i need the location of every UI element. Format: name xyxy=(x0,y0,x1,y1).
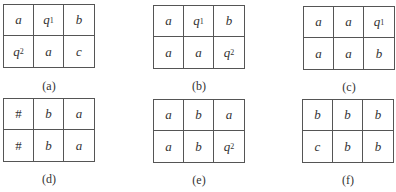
cell-symbol: c xyxy=(315,139,321,155)
grid-cell: c xyxy=(303,131,333,162)
cell-subscript: 2 xyxy=(20,47,24,56)
grid-cell: a xyxy=(154,37,184,68)
cell-symbol: a xyxy=(315,14,322,30)
grid-cell: b xyxy=(64,5,94,36)
grid-cell: a xyxy=(304,7,334,38)
cell-symbol: b xyxy=(314,107,321,123)
panel-caption: (a) xyxy=(3,79,95,94)
grid-cell: a xyxy=(154,100,184,131)
grid-cell: b xyxy=(303,100,333,131)
grid-cell: b xyxy=(34,99,64,130)
panel-e: abaabq2 xyxy=(153,99,245,163)
cell-symbol: a xyxy=(165,13,172,29)
cell-symbol: b xyxy=(344,107,351,123)
cell-symbol: b xyxy=(76,12,83,28)
grid-cell: a xyxy=(214,100,244,131)
cell-symbol: b xyxy=(45,106,52,122)
grid-cell: b xyxy=(184,100,214,131)
grid-cell: a xyxy=(334,7,364,38)
panel-d: #ba#ba xyxy=(3,98,95,162)
grid-cell: a xyxy=(154,131,184,162)
cell-subscript: 2 xyxy=(230,142,234,151)
panel-caption: (d) xyxy=(3,172,95,187)
grid-cell: a xyxy=(304,38,334,69)
panel-c: aaq1aab xyxy=(303,6,395,70)
cell-symbol: a xyxy=(45,44,52,60)
cell-symbol: a xyxy=(15,12,22,28)
cell-symbol: a xyxy=(165,45,172,61)
cell-symbol: a xyxy=(76,138,83,154)
cell-symbol: a xyxy=(165,107,172,123)
cell-symbol: a xyxy=(226,107,233,123)
grid-cell: q2 xyxy=(214,131,244,162)
cell-subscript: 2 xyxy=(230,48,234,57)
grid-cell: q1 xyxy=(184,6,214,37)
grid-cell: # xyxy=(4,99,34,130)
panel-b: aq1baaq2 xyxy=(153,5,245,69)
panel-caption: (f) xyxy=(302,173,394,188)
grid-cell: b xyxy=(363,100,393,131)
cell-symbol: # xyxy=(15,138,22,154)
grid-cell: q2 xyxy=(214,37,244,68)
grid-cell: # xyxy=(4,130,34,161)
panel-caption: (c) xyxy=(303,80,395,95)
grid-cell: a xyxy=(154,6,184,37)
grid-cell: c xyxy=(64,36,94,67)
grid-cell: b xyxy=(333,131,363,162)
tape-grid: aq1bq2ac xyxy=(3,4,95,68)
cell-symbol: a xyxy=(345,46,352,62)
cell-symbol: b xyxy=(45,138,52,154)
grid-cell: a xyxy=(64,130,94,161)
grid-cell: q1 xyxy=(364,7,394,38)
cell-symbol: a xyxy=(315,46,322,62)
grid-cell: b xyxy=(214,6,244,37)
cell-symbol: a xyxy=(195,45,202,61)
grid-cell: b xyxy=(184,131,214,162)
grid-cell: a xyxy=(334,38,364,69)
tape-grid: bbbcbb xyxy=(302,99,394,163)
grid-cell: b xyxy=(364,38,394,69)
panel-caption: (e) xyxy=(153,173,245,188)
tape-grid: abaabq2 xyxy=(153,99,245,163)
cell-symbol: b xyxy=(226,13,233,29)
grid-cell: a xyxy=(64,99,94,130)
cell-subscript: 1 xyxy=(380,18,384,27)
grid-cell: b xyxy=(34,130,64,161)
cell-symbol: b xyxy=(375,107,382,123)
grid-cell: b xyxy=(363,131,393,162)
grid-cell: a xyxy=(4,5,34,36)
cell-subscript: 1 xyxy=(200,17,204,26)
cell-symbol: a xyxy=(76,106,83,122)
cell-symbol: b xyxy=(376,46,383,62)
cell-symbol: a xyxy=(165,139,172,155)
cell-symbol: # xyxy=(15,106,22,122)
cell-symbol: b xyxy=(195,107,202,123)
grid-cell: b xyxy=(333,100,363,131)
tape-grid: #ba#ba xyxy=(3,98,95,162)
panel-f: bbbcbb xyxy=(302,99,394,163)
panel-a: aq1bq2ac xyxy=(3,4,95,68)
grid-cell: q1 xyxy=(34,5,64,36)
panel-caption: (b) xyxy=(153,79,245,94)
cell-symbol: a xyxy=(345,14,352,30)
cell-symbol: b xyxy=(344,139,351,155)
cell-symbol: b xyxy=(195,139,202,155)
tape-grid: aaq1aab xyxy=(303,6,395,70)
cell-symbol: c xyxy=(76,44,82,60)
grid-cell: a xyxy=(184,37,214,68)
tape-grid: aq1baaq2 xyxy=(153,5,245,69)
cell-subscript: 1 xyxy=(50,16,54,25)
grid-cell: q2 xyxy=(4,36,34,67)
grid-cell: a xyxy=(34,36,64,67)
cell-symbol: b xyxy=(375,139,382,155)
